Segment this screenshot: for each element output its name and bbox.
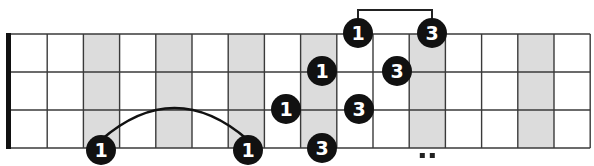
finger-number: 3 xyxy=(315,137,328,159)
shaded-fret-9 xyxy=(301,34,337,148)
fret-marker-dots xyxy=(420,153,435,158)
note-dot-finger-3: 3 xyxy=(417,18,447,48)
shaded-fret-12 xyxy=(409,34,445,148)
finger-number: 1 xyxy=(315,60,328,82)
fret-marker-dot xyxy=(420,153,425,158)
note-dots: 131313113 xyxy=(86,18,447,165)
note-dot-finger-3: 3 xyxy=(382,56,412,86)
finger-number: 1 xyxy=(94,139,107,161)
finger-number: 1 xyxy=(351,22,364,44)
fret-shading xyxy=(83,34,554,148)
shaded-fret-5 xyxy=(156,34,192,148)
note-dot-finger-1: 1 xyxy=(343,18,373,48)
fretboard-diagram: 131313113 xyxy=(0,0,594,166)
nut xyxy=(6,33,11,149)
note-dot-finger-1: 1 xyxy=(233,135,263,165)
note-dot-finger-1: 1 xyxy=(271,94,301,124)
finger-number: 3 xyxy=(352,98,365,120)
note-dot-finger-1: 1 xyxy=(307,56,337,86)
finger-number: 1 xyxy=(241,139,254,161)
finger-number: 3 xyxy=(425,22,438,44)
note-dot-finger-1: 1 xyxy=(86,135,116,165)
note-dot-finger-3: 3 xyxy=(344,94,374,124)
note-dot-finger-3: 3 xyxy=(307,133,337,163)
finger-number: 1 xyxy=(279,98,292,120)
fret-marker-dot xyxy=(430,153,435,158)
shaded-fret-7 xyxy=(228,34,264,148)
shaded-fret-15 xyxy=(518,34,554,148)
connectors xyxy=(101,10,432,140)
finger-number: 3 xyxy=(390,60,403,82)
